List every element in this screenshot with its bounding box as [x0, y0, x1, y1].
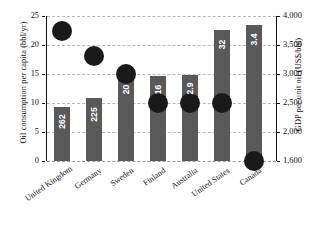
y-tick-right-4000: 4,000	[283, 12, 320, 20]
tickmark-right-1600	[277, 161, 280, 162]
bar-value-label-sweden: 20	[122, 76, 131, 104]
tickmark-right-3000	[277, 74, 280, 75]
tickmark-right-2500	[277, 103, 280, 104]
y-tick-right-3500: 3,500	[283, 41, 320, 49]
y-tick-left-5: 5	[0, 128, 39, 136]
bar-value-label-australia: 2.9	[186, 75, 195, 103]
tickmark-right-4000	[277, 16, 280, 17]
bar-value-label-united-states: 32	[218, 31, 227, 59]
y-tick-right-2000: 2,000	[283, 128, 320, 136]
bar-value-label-germany: 225	[90, 101, 99, 129]
y-tick-right-1600: 1,600	[283, 157, 320, 165]
marker-united-states[interactable]	[212, 93, 232, 113]
y-tick-left-10: 10	[0, 99, 39, 107]
tickmark-left-10	[42, 103, 45, 104]
gridline-0	[47, 161, 276, 162]
gridline-25	[47, 16, 276, 17]
y-tick-left-20: 20	[0, 41, 39, 49]
bar-value-label-finland: 16	[154, 76, 163, 104]
y-tick-right-2500: 2,500	[283, 99, 320, 107]
gridline-20	[47, 45, 276, 46]
chart-container: Oil consumption per capita (bbl/yr) GDP …	[0, 0, 320, 229]
tickmark-left-5	[42, 132, 45, 133]
tickmark-left-20	[42, 45, 45, 46]
y-tick-left-15: 15	[0, 70, 39, 78]
tickmark-right-3500	[277, 45, 280, 46]
y-tick-left-0: 0	[0, 157, 39, 165]
bar-value-label-canada: 3.4	[250, 26, 259, 54]
y-tick-right-3000: 3,000	[283, 70, 320, 78]
tickmark-right-2000	[277, 132, 280, 133]
y-tick-left-25: 25	[0, 12, 39, 20]
tickmark-left-15	[42, 74, 45, 75]
bar-value-label-united-kingdom: 262	[58, 108, 67, 136]
marker-germany[interactable]	[84, 46, 104, 66]
marker-united-kingdom[interactable]	[52, 21, 72, 41]
tickmark-left-25	[42, 16, 45, 17]
tickmark-left-0	[42, 161, 45, 162]
